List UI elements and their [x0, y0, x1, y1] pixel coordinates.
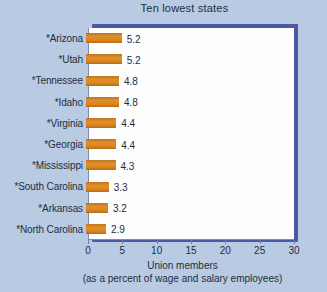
x-axis-caption-line-2: (as a percent of wage and salary employe…: [38, 272, 327, 285]
bar-row: *Tennessee4.8: [0, 70, 327, 91]
chart-title: Ten lowest states: [0, 2, 327, 14]
bar-value-label: 4.4: [121, 118, 135, 129]
bar-category-label: *Tennessee: [0, 75, 86, 86]
x-axis-tick-mark: [88, 240, 89, 244]
bar-row: *Mississippi4.3: [0, 155, 327, 176]
bar: [86, 182, 109, 192]
bar: [86, 203, 108, 213]
bar-row: *North Carolina2.9: [0, 219, 327, 240]
bar: [86, 97, 119, 107]
bar-track: 2.9: [86, 219, 292, 240]
bar-value-label: 4.4: [121, 139, 135, 150]
x-axis-tick-label: 0: [85, 245, 91, 256]
bar-row: *South Carolina3.3: [0, 176, 327, 197]
x-axis-tick-mark: [294, 240, 295, 244]
bar-category-label: *Virginia: [0, 118, 86, 129]
x-axis-tick-label: 15: [185, 245, 196, 256]
x-axis-tick-mark: [157, 240, 158, 244]
bar-rows: *Arizona5.2*Utah5.2*Tennessee4.8*Idaho4.…: [0, 28, 327, 240]
bar-track: 4.8: [86, 70, 292, 91]
bar-value-label: 5.2: [127, 33, 141, 44]
x-axis-tick-label: 10: [151, 245, 162, 256]
bar-track: 4.8: [86, 92, 292, 113]
bar: [86, 224, 106, 234]
bar-category-label: *Georgia: [0, 139, 86, 150]
bar-category-label: *North Carolina: [0, 224, 86, 235]
bar-category-label: *Mississippi: [0, 160, 86, 171]
bar-track: 4.4: [86, 113, 292, 134]
bar-row: *Arkansas3.2: [0, 198, 327, 219]
x-axis-tick-label: 30: [288, 245, 299, 256]
bar-value-label: 2.9: [111, 224, 125, 235]
bar-category-label: *Utah: [0, 54, 86, 65]
x-axis-tick-label: 20: [220, 245, 231, 256]
bar-track: 5.2: [86, 49, 292, 70]
bar-track: 4.3: [86, 155, 292, 176]
bar-category-label: *Idaho: [0, 97, 86, 108]
bar-row: *Arizona5.2: [0, 28, 327, 49]
bar-row: *Virginia4.4: [0, 113, 327, 134]
bar: [86, 160, 116, 170]
bar-value-label: 3.3: [114, 181, 128, 192]
bar-row: *Utah5.2: [0, 49, 327, 70]
bar-row: *Georgia4.4: [0, 134, 327, 155]
bar-value-label: 4.8: [124, 75, 138, 86]
bar: [86, 54, 122, 64]
x-axis-tick-mark: [225, 240, 226, 244]
bar: [86, 33, 122, 43]
bar-value-label: 3.2: [113, 203, 127, 214]
bar-value-label: 4.8: [124, 97, 138, 108]
bar-value-label: 5.2: [127, 54, 141, 65]
x-axis-tick-label: 5: [120, 245, 126, 256]
x-axis-caption: Union members (as a percent of wage and …: [0, 259, 327, 285]
bar-row: *Idaho4.8: [0, 92, 327, 113]
bar-track: 5.2: [86, 28, 292, 49]
bar-category-label: *Arizona: [0, 33, 86, 44]
bar: [86, 118, 116, 128]
bar: [86, 76, 119, 86]
x-axis-caption-line-1: Union members: [38, 259, 327, 272]
bar-track: 4.4: [86, 134, 292, 155]
bar-track: 3.2: [86, 198, 292, 219]
x-axis-tick-mark: [122, 240, 123, 244]
bar: [86, 139, 116, 149]
bar-track: 3.3: [86, 176, 292, 197]
x-axis-tick-mark: [260, 240, 261, 244]
bar-value-label: 4.3: [121, 160, 135, 171]
x-axis-tick-mark: [191, 240, 192, 244]
x-axis-tick-label: 25: [254, 245, 265, 256]
bar-chart: Ten lowest states *Arizona5.2*Utah5.2*Te…: [0, 0, 327, 292]
bar-category-label: *South Carolina: [0, 181, 86, 192]
bar-category-label: *Arkansas: [0, 203, 86, 214]
